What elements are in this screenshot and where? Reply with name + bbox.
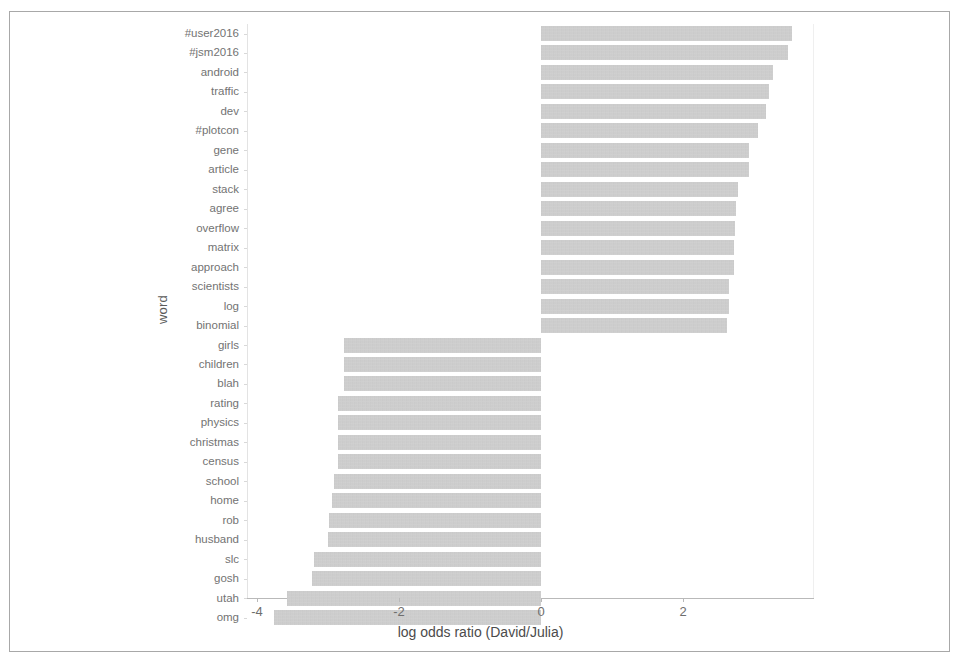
- y-axis-tick-label: log: [119, 299, 239, 314]
- x-axis-tick-mark: [399, 598, 400, 602]
- x-axis-tick-mark: [541, 598, 542, 602]
- y-axis-tick-mark: [244, 72, 247, 73]
- y-axis-tick-mark: [244, 520, 247, 521]
- y-axis-tick-mark: [244, 228, 247, 229]
- y-axis-tick-label: dev: [119, 104, 239, 119]
- bar: [312, 571, 541, 586]
- y-axis-tick-mark: [244, 34, 247, 35]
- bar: [541, 201, 736, 216]
- y-axis-tick-mark: [244, 540, 247, 541]
- y-axis-tick-label: physics: [119, 415, 239, 430]
- y-axis-tick-label: utah: [119, 591, 239, 606]
- y-axis-tick-mark: [244, 403, 247, 404]
- y-axis-tick-mark: [244, 131, 247, 132]
- bar: [338, 435, 541, 450]
- y-axis-tick-label: census: [119, 454, 239, 469]
- y-axis-tick-label: article: [119, 162, 239, 177]
- y-axis-tick-mark: [244, 501, 247, 502]
- bar: [541, 318, 727, 333]
- y-axis-tick-mark: [244, 442, 247, 443]
- bar: [338, 454, 541, 469]
- y-axis-tick-mark: [244, 248, 247, 249]
- y-axis-tick-label: rating: [119, 396, 239, 411]
- y-axis-tick-label: stack: [119, 182, 239, 197]
- y-axis-tick-mark: [244, 53, 247, 54]
- y-axis-tick-label: android: [119, 65, 239, 80]
- y-axis-tick-label: rob: [119, 513, 239, 528]
- y-axis-tick-mark: [244, 150, 247, 151]
- y-axis-tick-mark: [244, 92, 247, 93]
- bar: [541, 65, 773, 80]
- y-axis-tick-label: school: [119, 474, 239, 489]
- x-axis-tick-label: 0: [521, 604, 561, 619]
- bar: [344, 357, 541, 372]
- bar: [314, 552, 541, 567]
- y-axis-title: word: [155, 290, 170, 330]
- y-axis-tick-mark: [244, 345, 247, 346]
- x-axis-tick-mark: [683, 598, 684, 602]
- bar: [541, 84, 769, 99]
- y-axis-tick-mark: [244, 481, 247, 482]
- y-axis-tick-label: #jsm2016: [119, 45, 239, 60]
- y-axis-tick-mark: [244, 287, 247, 288]
- y-axis-tick-label: home: [119, 493, 239, 508]
- y-axis-tick-mark: [244, 462, 247, 463]
- y-axis-tick-mark: [244, 364, 247, 365]
- x-axis-title: log odds ratio (David/Julia): [10, 624, 951, 640]
- y-axis-tick-mark: [244, 384, 247, 385]
- bar: [541, 221, 735, 236]
- bar: [328, 532, 541, 547]
- y-axis-tick-label: husband: [119, 532, 239, 547]
- y-axis-tick-label: gene: [119, 143, 239, 158]
- bar: [541, 260, 734, 275]
- bar: [541, 162, 749, 177]
- bar: [541, 45, 788, 60]
- y-axis-tick-label: binomial: [119, 318, 239, 333]
- bar: [332, 493, 541, 508]
- x-axis-tick-mark: [257, 598, 258, 602]
- y-axis-tick-label: scientists: [119, 279, 239, 294]
- x-axis-tick-label: -4: [237, 604, 277, 619]
- y-axis-tick-label: blah: [119, 376, 239, 391]
- x-axis-tick-label: -2: [379, 604, 419, 619]
- bar: [344, 376, 541, 391]
- log-odds-ratio-bar-chart: #user2016#jsm2016androidtrafficdev#plotc…: [10, 12, 951, 653]
- bar: [541, 143, 749, 158]
- y-axis-tick-mark: [244, 423, 247, 424]
- bar: [541, 240, 734, 255]
- y-axis-tick-mark: [244, 306, 247, 307]
- y-axis-tick-mark: [244, 111, 247, 112]
- y-axis-tick-mark: [244, 170, 247, 171]
- bar: [329, 513, 541, 528]
- bar: [338, 396, 541, 411]
- bar: [344, 338, 541, 353]
- y-axis-tick-mark: [244, 326, 247, 327]
- bar: [541, 104, 766, 119]
- y-axis-tick-mark: [244, 559, 247, 560]
- y-axis-tick-label: approach: [119, 260, 239, 275]
- y-axis-tick-label: children: [119, 357, 239, 372]
- y-axis-tick-label: #user2016: [119, 26, 239, 41]
- bar: [541, 279, 729, 294]
- y-axis-tick-mark: [244, 579, 247, 580]
- y-axis-tick-mark: [244, 189, 247, 190]
- y-axis-tick-label: #plotcon: [119, 123, 239, 138]
- y-axis-tick-label: girls: [119, 338, 239, 353]
- y-axis-tick-label: christmas: [119, 435, 239, 450]
- figure-frame: #user2016#jsm2016androidtrafficdev#plotc…: [9, 11, 950, 652]
- y-axis-tick-mark: [244, 209, 247, 210]
- y-axis-tick-label: omg: [119, 610, 239, 625]
- y-axis-tick-label: agree: [119, 201, 239, 216]
- x-axis-tick-label: 2: [663, 604, 703, 619]
- bar: [541, 299, 729, 314]
- bar: [541, 123, 758, 138]
- bar: [541, 26, 792, 41]
- y-axis-tick-mark: [244, 598, 247, 599]
- y-axis-tick-label: slc: [119, 552, 239, 567]
- y-axis-tick-label: matrix: [119, 240, 239, 255]
- bar: [541, 182, 738, 197]
- y-axis-tick-label: gosh: [119, 571, 239, 586]
- y-axis-tick-label: traffic: [119, 84, 239, 99]
- bar: [334, 474, 541, 489]
- y-axis-tick-label: overflow: [119, 221, 239, 236]
